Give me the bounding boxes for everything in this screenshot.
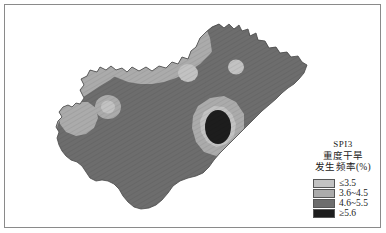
- figure-frame: SPI3 重度干旱 发生频率(%) ≤3.5 3.6~4.5 4.6~5.5: [4, 4, 381, 228]
- legend-item-4-6-5-5[interactable]: 4.6~5.5: [313, 199, 368, 209]
- legend-label-gte-5-6: ≥5.6: [339, 209, 356, 219]
- legend-title-line-2: 重度干旱: [303, 151, 383, 163]
- legend-item-lte-3-5[interactable]: ≤3.5: [313, 179, 356, 189]
- legend-item-list: ≤3.5 3.6~4.5 4.6~5.5 ≥5.6: [313, 179, 383, 219]
- map-hatch-overlay: [10, 10, 310, 232]
- legend-label-4-6-5-5: 4.6~5.5: [339, 199, 368, 209]
- legend-item-gte-5-6[interactable]: ≥5.6: [313, 209, 356, 219]
- legend-swatch-3-6-4-5: [313, 189, 335, 199]
- legend-title-line-1: SPI3: [303, 139, 383, 151]
- legend-swatch-lte-3-5: [313, 179, 335, 189]
- map-legend: SPI3 重度干旱 发生频率(%) ≤3.5 3.6~4.5 4.6~5.5: [303, 139, 383, 219]
- map-svg: [10, 10, 310, 232]
- legend-swatch-4-6-5-5: [313, 199, 335, 209]
- legend-label-lte-3-5: ≤3.5: [339, 179, 356, 189]
- map-canvas[interactable]: [10, 10, 310, 232]
- map-regions: [10, 10, 310, 232]
- figure-root: SPI3 重度干旱 发生频率(%) ≤3.5 3.6~4.5 4.6~5.5: [0, 0, 386, 233]
- legend-label-3-6-4-5: 3.6~4.5: [339, 189, 368, 199]
- legend-title-line-3: 发生频率(%): [303, 162, 383, 174]
- legend-swatch-gte-5-6: [313, 209, 335, 219]
- legend-item-3-6-4-5[interactable]: 3.6~4.5: [313, 189, 368, 199]
